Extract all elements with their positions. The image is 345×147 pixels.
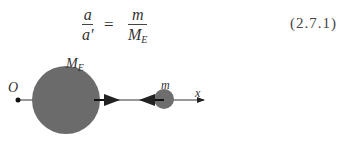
earth-body-diagram: [0, 0, 345, 147]
x-axis-label: x: [195, 86, 200, 101]
earth-mass-label: ME: [66, 56, 84, 73]
origin-dot: [16, 98, 21, 103]
body-mass-label: m: [161, 78, 170, 93]
earth-sphere: [32, 66, 100, 134]
origin-label: O: [8, 80, 18, 96]
